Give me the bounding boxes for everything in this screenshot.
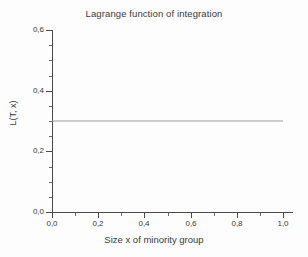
y-axis-minor-tick	[49, 60, 52, 61]
x-axis-title: Size x of minority group	[0, 234, 308, 245]
x-axis-line	[52, 212, 293, 213]
x-axis-tick	[283, 213, 284, 218]
x-axis-tick	[52, 213, 53, 218]
x-axis-minor-tick	[121, 213, 122, 216]
y-axis-minor-tick	[49, 121, 52, 122]
x-axis-tick	[144, 213, 145, 218]
y-axis-tick-label: 0,2	[20, 146, 44, 155]
y-axis-minor-tick	[49, 182, 52, 183]
y-axis-tick	[46, 151, 52, 152]
x-axis-minor-tick	[214, 213, 215, 216]
x-axis-tick-label: 0,6	[176, 219, 206, 228]
x-axis-minor-tick	[260, 213, 261, 216]
y-axis-tick	[46, 91, 52, 92]
x-axis-tick-label: 0,8	[222, 219, 252, 228]
y-axis-tick-label: 0,6	[20, 25, 44, 34]
y-axis-title: L(T, x)	[8, 78, 18, 148]
x-axis-minor-tick	[75, 213, 76, 216]
x-axis-tick-label: 0,0	[37, 219, 67, 228]
y-axis-tick-label: 0,4	[20, 86, 44, 95]
y-axis-line	[52, 30, 53, 213]
y-axis-minor-tick	[49, 76, 52, 77]
x-axis-tick	[98, 213, 99, 218]
y-axis-minor-tick	[49, 136, 52, 137]
y-axis-minor-tick	[49, 197, 52, 198]
x-axis-tick	[191, 213, 192, 218]
y-axis-tick-label: 0,0	[20, 207, 44, 216]
y-axis-minor-tick	[49, 106, 52, 107]
chart-figure: Lagrange function of integration 0,00,20…	[0, 0, 308, 257]
x-axis-minor-tick	[168, 213, 169, 216]
x-axis-tick-label: 0,4	[129, 219, 159, 228]
x-axis-tick-label: 1,0	[268, 219, 298, 228]
x-axis-tick	[237, 213, 238, 218]
chart-title: Lagrange function of integration	[0, 8, 308, 19]
y-axis-minor-tick	[49, 45, 52, 46]
x-axis-tick-label: 0,2	[83, 219, 113, 228]
y-axis-tick	[46, 30, 52, 31]
y-axis-minor-tick	[49, 167, 52, 168]
